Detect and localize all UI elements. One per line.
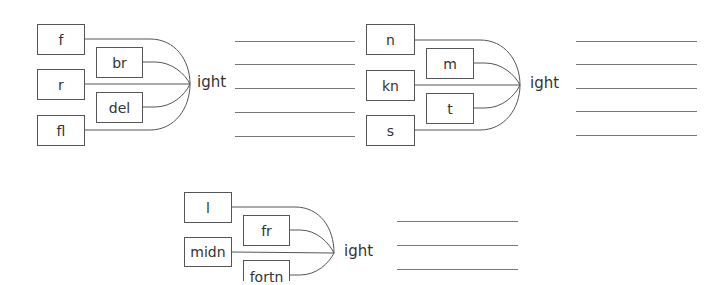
prefix-box: m — [426, 48, 474, 79]
prefix-box: fortn — [243, 260, 290, 281]
prefix-label: midn — [190, 244, 225, 260]
answer-line[interactable] — [235, 136, 355, 137]
answer-line[interactable] — [576, 111, 697, 112]
prefix-label: l — [206, 200, 210, 216]
suffix-label: ight — [530, 76, 559, 91]
answer-line[interactable] — [576, 41, 697, 42]
answer-line[interactable] — [397, 245, 518, 246]
prefix-label: m — [443, 56, 457, 72]
answer-line[interactable] — [397, 221, 518, 222]
prefix-box: br — [96, 47, 143, 78]
answer-line[interactable] — [397, 269, 518, 270]
prefix-box: fr — [243, 215, 290, 246]
answer-line[interactable] — [235, 64, 355, 65]
answer-line[interactable] — [576, 88, 697, 89]
prefix-label: kn — [382, 78, 399, 94]
answer-line[interactable] — [235, 88, 355, 89]
prefix-box: f — [37, 24, 85, 55]
prefix-label: fl — [57, 123, 66, 139]
prefix-box: kn — [366, 70, 415, 101]
prefix-label: t — [447, 101, 453, 117]
prefix-label: s — [387, 123, 394, 139]
prefix-box: t — [426, 93, 474, 124]
prefix-label: r — [58, 77, 64, 93]
prefix-label: del — [109, 100, 130, 116]
answer-line[interactable] — [235, 41, 355, 42]
prefix-label: n — [386, 32, 395, 48]
prefix-box: del — [96, 92, 143, 123]
prefix-label: fr — [261, 223, 272, 239]
suffix-label: ight — [344, 244, 373, 259]
prefix-box: l — [184, 192, 232, 223]
answer-line[interactable] — [576, 64, 697, 65]
prefix-label: f — [59, 32, 64, 48]
prefix-box: s — [366, 115, 415, 146]
prefix-box: midn — [184, 237, 232, 267]
answer-line[interactable] — [576, 135, 697, 136]
prefix-box: fl — [37, 115, 85, 146]
prefix-box: r — [37, 69, 85, 100]
answer-line[interactable] — [235, 112, 355, 113]
prefix-label: br — [112, 55, 127, 71]
suffix-label: ight — [197, 75, 226, 90]
prefix-box: n — [366, 24, 415, 55]
prefix-label: fortn — [250, 269, 284, 285]
